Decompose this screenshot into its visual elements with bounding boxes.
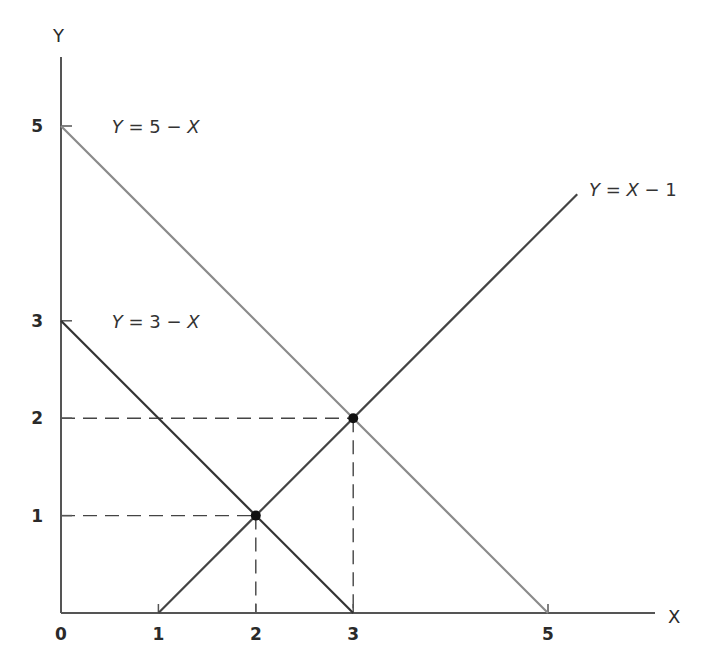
- series-label-3: Y = X − 1: [589, 179, 677, 200]
- series-label-2: Y = 3 − X: [112, 311, 201, 332]
- x-tick-label: 0: [55, 624, 67, 644]
- guide-lines: [61, 418, 353, 613]
- y-tick-label: 1: [31, 506, 43, 526]
- y-tick-label: 2: [31, 408, 43, 428]
- ticks: 012351235: [31, 116, 554, 644]
- x-tick-label: 3: [347, 624, 359, 644]
- x-tick-label: 5: [542, 624, 554, 644]
- y-tick-label: 5: [31, 116, 43, 136]
- series-labels: Y = 5 − XY = 3 − XY = X − 1: [112, 116, 677, 332]
- series-line-2: [61, 321, 353, 613]
- x-tick-label: 2: [250, 624, 262, 644]
- series-line-1: [61, 126, 548, 613]
- y-axis-title: Y: [52, 25, 65, 46]
- chart: X Y 012351235 Y = 5 − XY = 3 − XY = X − …: [0, 0, 704, 663]
- y-tick-label: 3: [31, 311, 43, 331]
- series-lines: [61, 126, 577, 613]
- x-tick-label: 1: [152, 624, 164, 644]
- x-axis-title: X: [668, 606, 680, 627]
- series-label-1: Y = 5 − X: [112, 116, 201, 137]
- intersection-point: [251, 511, 261, 521]
- series-line-3: [158, 194, 577, 613]
- intersection-point: [348, 413, 358, 423]
